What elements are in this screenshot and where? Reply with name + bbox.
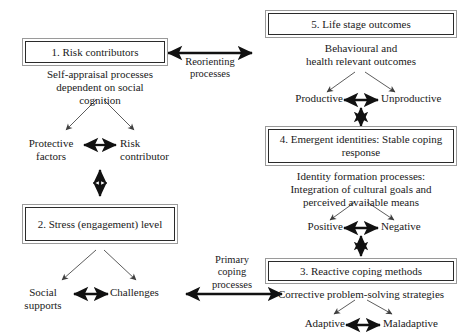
node-box-stress-level-label: 2. Stress (engagement) level (25, 207, 175, 241)
leaf-social-supports: Social supports (14, 286, 72, 312)
leaf-negative: Negative (381, 220, 439, 233)
node-box-stress-level[interactable]: 2. Stress (engagement) level (22, 204, 178, 244)
node-box-life-stage-outcomes-label: 5. Life stage outcomes (268, 13, 454, 35)
leaf-unproductive: Unproductive (381, 92, 453, 105)
node-box-emergent-identities[interactable]: 4. Emergent identities: Stable coping re… (265, 126, 457, 166)
leaf-risk-contributor: Risk contributor (120, 137, 182, 163)
node-box-risk-contributors-label: 1. Risk contributors (25, 41, 165, 63)
node-box-emergent-identities-label: 4. Emergent identities: Stable coping re… (268, 129, 454, 163)
fork-arrows-box3 (334, 300, 392, 314)
node-box-risk-contributors[interactable]: 1. Risk contributors (22, 38, 168, 66)
caption-behavioural-outcomes: Behavioural and health relevant outcomes (281, 42, 441, 68)
node-box-life-stage-outcomes[interactable]: 5. Life stage outcomes (265, 10, 457, 38)
leaf-maladaptive: Maladaptive (383, 317, 455, 330)
caption-corrective-strategies: Corrective problem-solving strategies (261, 288, 461, 301)
edge-label-primary-coping-processes: Primary coping processes (196, 254, 268, 291)
fork-arrows-box2 (62, 250, 136, 280)
leaf-protective-factors: Protective factors (22, 137, 80, 163)
leaf-challenges: Challenges (110, 286, 184, 299)
leaf-adaptive: Adaptive (289, 317, 345, 330)
diagram-canvas: 1. Risk contributors 2. Stress (engageme… (0, 0, 470, 336)
caption-self-appraisal: Self-appraisal processes dependent on so… (20, 68, 180, 107)
edge-label-reorienting-processes: Reorienting processes (170, 56, 250, 81)
node-box-reactive-coping-methods[interactable]: 3. Reactive coping methods (265, 258, 457, 284)
caption-identity-formation: Identity formation processes: Integratio… (261, 170, 461, 209)
leaf-positive: Positive (293, 220, 343, 233)
leaf-productive: Productive (285, 92, 343, 105)
fork-arrows-box5 (327, 72, 395, 92)
node-box-reactive-coping-methods-label: 3. Reactive coping methods (268, 261, 454, 281)
